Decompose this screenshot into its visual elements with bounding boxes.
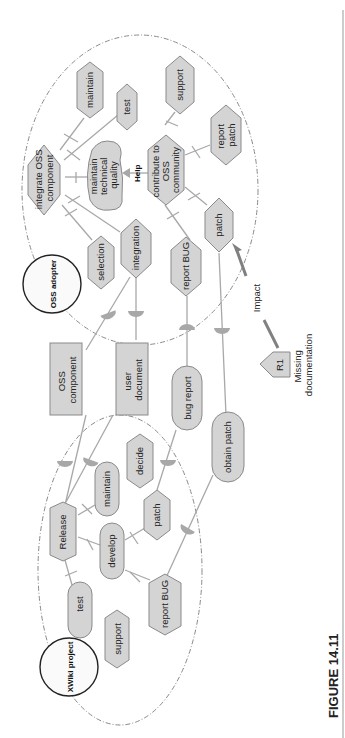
task-report-bug[interactable]: report BUG xyxy=(171,237,201,296)
node-label: selection xyxy=(95,243,106,281)
node-label-line: report xyxy=(215,124,226,149)
node-label: patch xyxy=(213,213,224,236)
dependency-marker xyxy=(178,524,195,537)
actor-xwiki-project[interactable]: XWiki project xyxy=(40,638,98,696)
node-label: integration xyxy=(130,226,141,270)
node-label: support xyxy=(112,623,123,655)
risk-description-line: documentation xyxy=(303,334,314,396)
task-report-patch[interactable]: report patch xyxy=(211,105,241,165)
resource-oss-component[interactable]: OSS component xyxy=(50,343,82,415)
task-integrate-oss-component[interactable]: integrate OSS component xyxy=(28,145,60,215)
node-label: maintain xyxy=(84,72,95,108)
node-label: patch xyxy=(151,503,162,526)
resource-user-document[interactable]: user document xyxy=(116,343,148,415)
task-integration[interactable]: integration xyxy=(121,219,151,278)
node-label-line: user xyxy=(122,372,133,390)
task-xwiki-support[interactable]: support xyxy=(105,610,129,668)
node-label: report BUG xyxy=(159,580,170,628)
svg-text:integrate OSS component: integrate OSS component xyxy=(33,147,55,209)
risk-r1[interactable]: R1 xyxy=(260,352,290,377)
node-label: develop xyxy=(106,534,117,567)
node-label-line: quality xyxy=(108,161,119,189)
impact-label: Impact xyxy=(251,283,262,312)
node-label-line: integrate OSS xyxy=(33,149,44,209)
risk-description-line: Missing xyxy=(292,350,303,382)
task-release[interactable]: Release xyxy=(50,502,76,561)
help-contribution-label: Help xyxy=(133,165,142,182)
dependency-marker xyxy=(179,324,195,330)
task-decide[interactable]: decide xyxy=(127,434,153,488)
goal-test[interactable]: test xyxy=(68,582,92,638)
task-patch[interactable]: patch xyxy=(205,198,233,252)
goal-obtain-patch[interactable]: obtain patch xyxy=(212,412,244,482)
goal-bug-report[interactable]: bug report xyxy=(172,366,202,430)
arrow-head-icon xyxy=(232,243,242,252)
goal-maintain[interactable]: maintain xyxy=(95,462,119,516)
node-label-line: document xyxy=(133,359,144,401)
figure-caption: FIGURE 14.11 xyxy=(326,633,341,718)
dependency-marker xyxy=(128,311,144,317)
diagram-canvas: Help OSS adopter xyxy=(0,0,345,738)
task-support[interactable]: support xyxy=(166,56,194,114)
task-selection[interactable]: selection xyxy=(88,236,114,289)
node-label: test xyxy=(74,596,85,612)
softgoal-maintain-technical-quality[interactable]: maintain technical quality xyxy=(87,141,122,210)
node-label: Release xyxy=(57,515,68,550)
node-label-line: patch xyxy=(226,123,237,146)
risk-id: R1 xyxy=(274,359,285,371)
node-label-line: OSS xyxy=(56,371,67,391)
task-xwiki-report-bug[interactable]: report BUG xyxy=(149,574,181,635)
dependency-marker xyxy=(214,328,230,334)
node-label-line: component xyxy=(44,154,55,201)
task-maintain[interactable]: maintain xyxy=(77,62,103,118)
task-test[interactable]: test xyxy=(117,84,137,130)
node-label: report BUG xyxy=(180,242,191,290)
goal-develop[interactable]: develop xyxy=(100,523,124,579)
svg-text:report patch: report patch xyxy=(215,121,237,148)
node-label-line: community xyxy=(170,147,181,193)
dependency-marker xyxy=(160,460,176,466)
node-label: obtain patch xyxy=(222,421,233,473)
task-contribute-to-oss-community[interactable]: contribute to OSS community xyxy=(148,135,184,205)
risk-description: Missing documentation xyxy=(292,334,314,396)
node-label-line: component xyxy=(67,356,78,403)
actor-oss-adopter[interactable]: OSS adopter xyxy=(23,255,81,313)
task-xwiki-patch[interactable]: patch xyxy=(144,490,170,540)
node-label: maintain xyxy=(101,471,112,507)
node-label: test xyxy=(121,99,132,115)
node-label: support xyxy=(174,69,185,101)
actor-label: XWiki project xyxy=(66,641,75,692)
actor-label: OSS adopter xyxy=(49,260,58,308)
node-label: bug report xyxy=(182,376,193,420)
dependency-links xyxy=(57,253,230,580)
node-label: decide xyxy=(134,447,145,475)
